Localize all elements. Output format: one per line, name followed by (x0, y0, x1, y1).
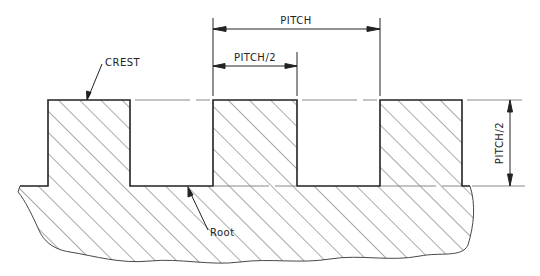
arrow-right-icon (285, 64, 297, 69)
arrow-left-icon (213, 64, 225, 69)
depth-dimension (508, 100, 513, 186)
crest-leader (87, 64, 103, 100)
thread-diagram: PITCH PITCH/2 PITCH/2 CREST Root (0, 0, 540, 276)
depth-label: PITCH/2 (494, 122, 505, 164)
crest-label: CREST (105, 57, 141, 68)
arrow-right-icon (367, 27, 380, 32)
pitch-label: PITCH (280, 15, 312, 26)
arrow-left-icon (213, 27, 226, 32)
thread-body (18, 100, 474, 263)
arrow-up-icon (508, 100, 513, 112)
half-pitch-label: PITCH/2 (234, 52, 276, 63)
arrow-down-icon (508, 174, 513, 186)
root-label: Root (210, 227, 235, 238)
arrow-icon (87, 91, 92, 100)
